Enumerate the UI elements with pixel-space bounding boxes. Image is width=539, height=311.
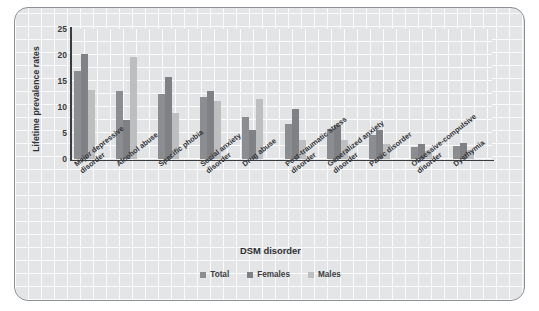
- bar-total: [200, 97, 207, 159]
- legend-label: Males: [318, 270, 341, 279]
- bar-group: [74, 29, 95, 159]
- y-axis-tick-15: 15: [58, 76, 67, 86]
- y-axis-tick-5: 5: [62, 128, 67, 138]
- legend-item-males[interactable]: Males: [308, 270, 341, 279]
- bar-group: [411, 29, 432, 159]
- y-axis-tick-25: 25: [58, 24, 67, 34]
- bar-group: [158, 29, 179, 159]
- bar-total: [285, 124, 292, 159]
- legend-swatch-icon: [308, 272, 314, 278]
- y-axis-title: Lifetime prevalence rates: [31, 34, 41, 164]
- bar-total: [74, 71, 81, 159]
- bar-group: [242, 29, 263, 159]
- x-axis-title: DSM disorder: [15, 245, 525, 256]
- y-axis-line: [70, 27, 72, 161]
- y-axis-ticks: 0510152025: [41, 8, 67, 301]
- bar-females: [81, 54, 88, 159]
- legend-item-females[interactable]: Females: [247, 270, 290, 279]
- bar-group: [285, 29, 306, 159]
- legend-item-total[interactable]: Total: [200, 270, 229, 279]
- y-axis-tick-20: 20: [58, 50, 67, 60]
- y-axis-tick-10: 10: [58, 102, 67, 112]
- chart-legend: TotalFemalesMales: [15, 270, 525, 279]
- legend-swatch-icon: [200, 272, 206, 278]
- chart-card: 0510152025 Lifetime prevalence rates Maj…: [14, 7, 525, 301]
- bar-group: [200, 29, 221, 159]
- legend-label: Total: [210, 270, 229, 279]
- y-axis-tick-0: 0: [62, 154, 67, 164]
- legend-label: Females: [257, 270, 290, 279]
- bar-total: [158, 94, 165, 159]
- bar-females: [165, 77, 172, 159]
- legend-swatch-icon: [247, 272, 253, 278]
